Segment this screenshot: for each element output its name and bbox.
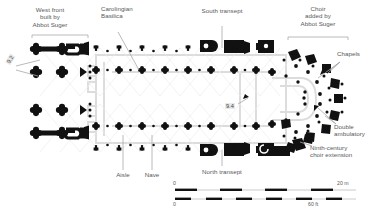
label-choir-added: Choir added by Abbot Suger [288,5,348,27]
scale-imperial-zero: 0 [173,201,176,207]
scale-bar-imperial [175,198,356,200]
label-aisle: Aisle [110,171,136,178]
north-transept-masonry [200,142,250,156]
label-carolingian-basilica: Carolingian Basilica [101,5,163,20]
west-front-bracket [32,35,88,38]
label-chapels: Chapels [337,50,373,57]
figure-marker-crossing: 9.4 [225,103,235,109]
transept-end-blocks [256,40,290,156]
choir-bracket [288,37,348,40]
scale-imperial-max: 60 ft [308,201,318,207]
scale-bar-metric [175,189,356,191]
choir-piers [268,68,307,128]
label-south-transept: South transept [190,7,254,14]
label-nave: Nave [139,171,165,178]
plan-drawing [0,0,374,211]
label-ninth-century-choir: Ninth-century choir extension [310,144,372,159]
label-double-ambulatory: Double ambulatory [334,123,374,138]
south-transept-masonry [200,40,250,54]
carolingian-basilica-ghost [88,55,316,143]
label-north-transept: North transept [192,168,252,175]
scale-metric-max: 20 m [337,180,349,186]
floor-plan-figure [0,0,374,211]
label-west-front: West front built by Abbot Suger [14,6,86,28]
west-front-masonry [30,42,89,140]
scale-metric-zero: 0 [173,180,176,186]
